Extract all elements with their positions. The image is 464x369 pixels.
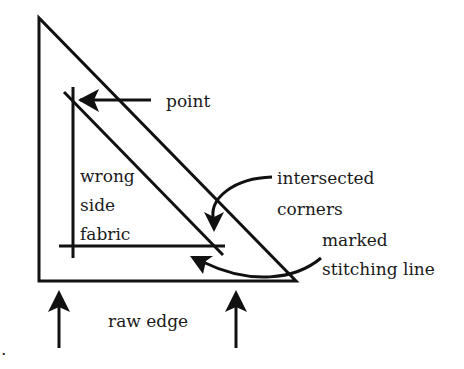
label-corners: corners (277, 199, 343, 219)
label-stitching-line: stitching line (322, 259, 435, 279)
outer-triangle (39, 18, 296, 281)
label-fabric: fabric (80, 224, 130, 244)
label-marked: marked (322, 230, 388, 250)
label-intersected: intersected (277, 168, 375, 188)
stray-dot: . (1, 339, 6, 359)
triangle-diagram: point wrong side fabric intersected corn… (0, 0, 464, 369)
label-side: side (80, 195, 115, 215)
marked-arrow (203, 258, 321, 277)
label-wrong: wrong (80, 166, 135, 186)
label-point: point (166, 91, 211, 111)
label-raw-edge: raw edge (108, 311, 188, 331)
